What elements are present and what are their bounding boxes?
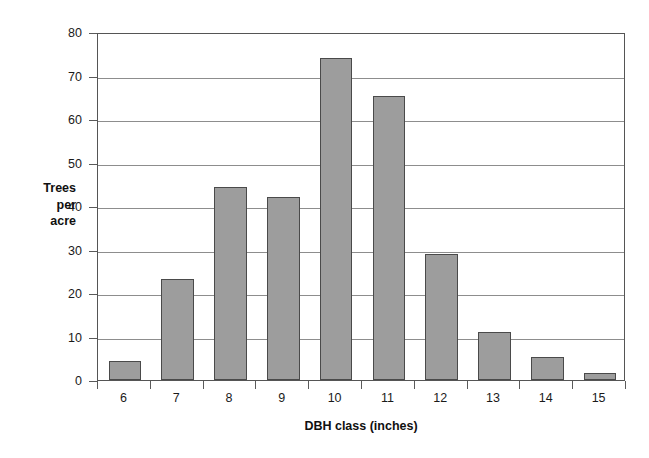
x-axis-tick <box>625 381 626 389</box>
bar[interactable] <box>531 357 564 380</box>
x-axis-tick-label: 8 <box>203 391 256 405</box>
y-axis-tick-label: 10 <box>46 332 82 344</box>
bar[interactable] <box>373 96 406 380</box>
x-axis-tick <box>255 381 256 389</box>
x-axis-tick <box>519 381 520 389</box>
x-axis-tick <box>414 381 415 389</box>
bar-slot <box>362 34 415 380</box>
bar-slot <box>151 34 204 380</box>
bar[interactable] <box>478 332 511 380</box>
bar[interactable] <box>320 58 353 380</box>
bar-slot <box>309 34 362 380</box>
bar[interactable] <box>267 197 300 380</box>
plot-area <box>97 33 625 381</box>
x-axis-tick-label: 14 <box>519 391 572 405</box>
x-axis-tick-label: 12 <box>414 391 467 405</box>
bar[interactable] <box>214 187 247 380</box>
y-axis-tick-label: 80 <box>46 27 82 39</box>
bar-slot <box>415 34 468 380</box>
bar-chart: Trees per acre 01020304050607080 6789101… <box>0 0 649 458</box>
bar-slot <box>98 34 151 380</box>
x-axis-tick-label: 7 <box>150 391 203 405</box>
bar-slot <box>520 34 573 380</box>
x-axis-tick-label: 15 <box>572 391 625 405</box>
y-axis-tick-label: 20 <box>46 288 82 300</box>
x-axis-tick <box>97 381 98 389</box>
x-axis-tick-label: 10 <box>308 391 361 405</box>
bar[interactable] <box>109 361 142 380</box>
bar[interactable] <box>425 254 458 380</box>
x-axis-tick-label: 13 <box>467 391 520 405</box>
y-axis-tick-label: 60 <box>46 114 82 126</box>
bars-layer <box>98 34 624 380</box>
x-axis-tick <box>203 381 204 389</box>
y-axis-title-line-1: Trees <box>14 180 76 197</box>
y-axis-tick-label: 50 <box>46 158 82 170</box>
bar-slot <box>468 34 521 380</box>
bar-slot <box>256 34 309 380</box>
x-axis-tick <box>361 381 362 389</box>
y-axis-tick-label: 30 <box>46 245 82 257</box>
bar[interactable] <box>161 279 194 380</box>
x-axis-tick <box>572 381 573 389</box>
x-axis-tick <box>150 381 151 389</box>
x-axis-tick <box>308 381 309 389</box>
x-axis-title: DBH class (inches) <box>97 419 625 433</box>
y-axis-tick-label: 70 <box>46 71 82 83</box>
bar-slot <box>204 34 257 380</box>
y-axis-tick-label: 0 <box>46 375 82 387</box>
y-axis-title-line-3: acre <box>14 213 76 230</box>
bar-slot <box>573 34 626 380</box>
x-axis-tick <box>467 381 468 389</box>
x-axis-tick-label: 11 <box>361 391 414 405</box>
x-axis-tick-label: 9 <box>255 391 308 405</box>
y-axis-tick-label: 40 <box>46 201 82 213</box>
x-axis-tick-label: 6 <box>97 391 150 405</box>
bar[interactable] <box>584 373 617 380</box>
